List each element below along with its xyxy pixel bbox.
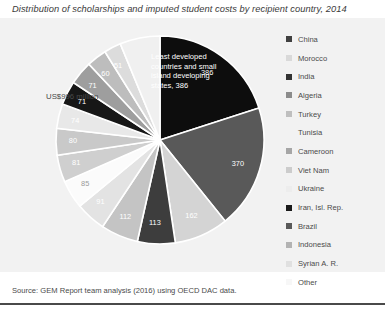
ldc-slice-annotation: Least developed countries and small isla… <box>151 52 227 90</box>
pie-slice-value-label: 60 <box>101 70 109 78</box>
legend-item[interactable]: India <box>286 67 385 86</box>
legend-item-label: Indonesia <box>298 240 331 249</box>
legend-item[interactable]: Algeria <box>286 86 385 105</box>
legend-item-label: Tunisia <box>298 128 322 137</box>
pie-slice-value-label: 162 <box>185 212 197 220</box>
legend-swatch-icon <box>286 74 292 80</box>
legend-item[interactable]: Cameroon <box>286 142 385 161</box>
legend-item[interactable]: Morocco <box>286 49 385 68</box>
pie-slice-value-label: 71 <box>78 98 86 106</box>
pie-slice-value-label: 80 <box>69 137 77 145</box>
legend-item-label: Algeria <box>298 91 322 100</box>
legend-item[interactable]: Ukraine <box>286 180 385 199</box>
legend-item-label: India <box>298 72 314 81</box>
legend-swatch-icon <box>286 279 292 285</box>
legend-item[interactable]: Viet Nam <box>286 161 385 180</box>
legend-item-label: Viet Nam <box>298 166 329 175</box>
legend-swatch-icon <box>286 261 292 267</box>
legend-item[interactable]: Turkey <box>286 105 385 124</box>
legend-item[interactable]: Indonesia <box>286 236 385 255</box>
legend-swatch-icon <box>286 111 292 117</box>
legend-swatch-icon <box>286 242 292 248</box>
pie-slice-value-label: 71 <box>88 82 96 90</box>
pie-slice-value-label: 386 <box>201 69 213 77</box>
legend-item-label: Brazil <box>298 222 317 231</box>
legend-item-label: Cameroon <box>298 147 333 156</box>
legend-item[interactable]: Syrian A. R. <box>286 254 385 273</box>
legend-swatch-icon <box>286 186 292 192</box>
legend-item-label: Other <box>298 278 317 287</box>
source-note: Source: GEM Report team analysis (2016) … <box>12 286 237 295</box>
legend-swatch-icon <box>286 55 292 61</box>
legend-swatch-icon <box>286 36 292 42</box>
pie-chart <box>0 18 268 272</box>
pie-slice-value-label: 113 <box>149 219 161 227</box>
legend-item[interactable]: China <box>286 30 385 49</box>
pie-slice-value-label: 91 <box>96 198 104 206</box>
bottom-divider <box>0 303 385 305</box>
pie-slice-value-label: 74 <box>71 117 79 125</box>
legend-item[interactable]: Brazil <box>286 217 385 236</box>
figure-title: Distribution of scholarships and imputed… <box>12 3 374 15</box>
pie-slice-value-label: 112 <box>119 213 131 221</box>
pie-slice-value-label: 81 <box>72 159 80 167</box>
pie-chart-svg <box>0 18 268 272</box>
pie-slice-value-label: 370 <box>232 160 244 168</box>
chart-legend: ChinaMoroccoIndiaAlgeriaTurkeyTunisiaCam… <box>286 30 385 274</box>
legend-item[interactable]: Other <box>286 273 385 292</box>
legend-item-label: Iran, Isl. Rep. <box>298 203 343 212</box>
legend-swatch-icon <box>286 148 292 154</box>
legend-item-label: Morocco <box>298 54 327 63</box>
legend-item-label: Syrian A. R. <box>298 259 338 268</box>
legend-swatch-icon <box>286 130 292 136</box>
legend-item-label: Ukraine <box>298 184 324 193</box>
legend-swatch-icon <box>286 92 292 98</box>
legend-item[interactable]: Iran, Isl. Rep. <box>286 198 385 217</box>
total-callout: US$996 million <box>46 92 98 101</box>
legend-item[interactable]: Tunisia <box>286 123 385 142</box>
legend-item-label: Turkey <box>298 110 321 119</box>
legend-item-label: China <box>298 35 318 44</box>
pie-slice-value-label: 51 <box>114 62 122 70</box>
figure-container: Distribution of scholarships and imputed… <box>0 0 385 309</box>
pie-slice-value-label: 85 <box>81 180 89 188</box>
legend-swatch-icon <box>286 205 292 211</box>
legend-swatch-icon <box>286 223 292 229</box>
legend-swatch-icon <box>286 167 292 173</box>
